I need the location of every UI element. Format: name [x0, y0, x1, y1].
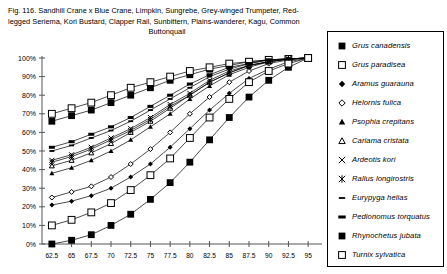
marker-thick-dash	[207, 73, 213, 76]
legend-item-rhynochetus-jubata[interactable]: Rhynochetus jubata	[328, 226, 443, 245]
marker-open-triangle	[339, 137, 345, 143]
marker-filled-square	[339, 232, 346, 239]
marker-thick-dash	[147, 105, 153, 108]
marker-open-diamond	[339, 99, 345, 105]
marker-asterisk	[339, 175, 345, 182]
legend-label: Ardeotis kori	[352, 155, 396, 164]
legend-marker-filled-square-icon	[334, 228, 350, 244]
y-tick-label: 90%	[22, 73, 36, 80]
legend-item-grus-canadensis[interactable]: Grus canadensis	[328, 36, 443, 55]
legend-label: Cariama cristata	[352, 136, 409, 145]
marker-open-square	[108, 92, 115, 99]
legend-marker-cross-x-icon	[334, 152, 350, 168]
marker-open-square	[48, 110, 55, 117]
legend-marker-filled-square-icon	[334, 38, 350, 54]
marker-filled-triangle	[339, 118, 345, 124]
marker-filled-square	[226, 114, 233, 121]
marker-filled-square	[147, 196, 154, 203]
x-tick-label: 65	[68, 252, 76, 259]
marker-open-square	[285, 60, 292, 67]
legend-label: Pedionomus torquatus	[352, 212, 430, 221]
marker-open-square	[147, 79, 154, 86]
marker-filled-triangle	[128, 137, 133, 142]
x-tick-label: 90	[265, 252, 273, 259]
legend-label: Turnix sylvatica	[352, 250, 405, 259]
marker-filled-diamond	[128, 175, 133, 180]
legend-item-aramus-guarauna[interactable]: Aramus guarauna	[328, 74, 443, 93]
legend-item-grus-paradisea[interactable]: Grus paradisea	[328, 55, 443, 74]
marker-open-square	[206, 64, 213, 71]
legend-item-helornis-fulica[interactable]: Helornis fulica	[328, 93, 443, 112]
caption-line-1: Fig. 116. Sandhill Crane x Blue Crane, L…	[8, 6, 326, 17]
marker-open-square	[68, 105, 75, 112]
marker-filled-diamond	[89, 193, 94, 198]
series-line	[52, 58, 308, 173]
legend-marker-open-triangle-icon	[334, 133, 350, 149]
legend-marker-open-square-icon	[334, 247, 350, 263]
x-tick-label: 67.5	[85, 252, 98, 259]
marker-open-square	[88, 209, 95, 216]
marker-short-dash	[168, 98, 173, 100]
marker-open-square	[147, 172, 154, 179]
marker-filled-square	[48, 241, 55, 248]
marker-thick-dash	[338, 215, 345, 218]
legend-label: Psophia crepitans	[352, 117, 414, 126]
chart-plot-area: 0%10%20%30%40%50%60%70%80%90%100%62.5656…	[0, 46, 325, 274]
marker-filled-square	[68, 237, 75, 244]
legend-label: Eurypyga helias	[352, 193, 408, 202]
marker-open-square	[167, 73, 174, 80]
x-tick-label: 82.5	[203, 252, 216, 259]
marker-open-square	[226, 96, 233, 103]
chart-legend: Grus canadensisGrus paradiseaAramus guar…	[327, 31, 444, 267]
y-tick-label: 80%	[22, 92, 36, 99]
x-tick-label: 77.5	[164, 252, 177, 259]
series-rhynochetus-jubata	[48, 55, 311, 248]
marker-open-square	[127, 84, 134, 91]
legend-item-rallus-longirostris[interactable]: Rallus longirostris	[328, 169, 443, 188]
y-tick-label: 30%	[22, 185, 36, 192]
marker-filled-square	[108, 99, 115, 106]
marker-thick-dash	[246, 62, 252, 65]
marker-short-dash	[49, 150, 54, 152]
marker-filled-square	[108, 222, 115, 229]
marker-filled-square	[127, 92, 134, 99]
marker-short-dash	[339, 197, 345, 199]
marker-open-square	[48, 222, 55, 229]
legend-marker-open-square-icon	[334, 57, 350, 73]
legend-item-turnix-sylvatica[interactable]: Turnix sylvatica	[328, 245, 443, 264]
marker-open-square	[186, 68, 193, 75]
legend-label: Grus paradisea	[352, 60, 405, 69]
marker-short-dash	[109, 130, 114, 132]
marker-short-dash	[148, 109, 153, 111]
x-tick-label: 75	[147, 252, 155, 259]
marker-open-diamond	[89, 184, 94, 189]
y-tick-label: 100%	[18, 55, 36, 62]
marker-open-square	[246, 79, 253, 86]
legend-item-cariama-cristata[interactable]: Cariama cristata	[328, 131, 443, 150]
marker-filled-square	[127, 211, 134, 218]
legend-marker-short-dash-icon	[334, 190, 350, 206]
marker-open-square	[186, 135, 193, 142]
marker-open-square	[68, 216, 75, 223]
marker-cross-x	[339, 156, 345, 162]
marker-open-square	[305, 55, 312, 62]
marker-open-diamond	[69, 189, 74, 194]
marker-open-diamond	[49, 195, 54, 200]
y-tick-label: 60%	[22, 129, 36, 136]
marker-open-square	[167, 155, 174, 162]
marker-filled-square	[206, 136, 213, 143]
legend-label: Helornis fulica	[352, 98, 401, 107]
x-tick-label: 95	[304, 252, 312, 259]
legend-item-pedionomus-torquatus[interactable]: Pedionomus torquatus	[328, 207, 443, 226]
legend-item-psophia-crepitans[interactable]: Psophia crepitans	[328, 112, 443, 131]
legend-marker-filled-diamond-icon	[334, 76, 350, 92]
marker-open-square	[339, 61, 346, 68]
marker-thick-dash	[49, 146, 55, 149]
figure-caption: Fig. 116. Sandhill Crane x Blue Crane, L…	[8, 6, 326, 38]
legend-item-ardeotis-kori[interactable]: Ardeotis kori	[328, 150, 443, 169]
marker-thick-dash	[266, 58, 272, 61]
legend-item-eurypyga-helias[interactable]: Eurypyga helias	[328, 188, 443, 207]
marker-thick-dash	[88, 133, 94, 136]
marker-filled-square	[68, 112, 75, 119]
caption-line-2: legged Seriema, Kori Bustard, Clapper Ra…	[8, 17, 326, 28]
